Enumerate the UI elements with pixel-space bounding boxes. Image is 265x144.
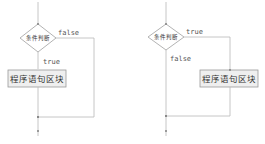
merge-point: [37, 116, 39, 118]
flowchart-canvas: 条件判断 false true 程序语句区块 条件判断 true 程序语句区块 …: [0, 0, 265, 144]
entry-arrow-icon: [165, 23, 167, 25]
merge-point: [165, 115, 167, 117]
branch-right-label: true: [186, 28, 203, 36]
left-flowchart: 条件判断 false true 程序语句区块: [8, 2, 94, 136]
branch-down-label: true: [43, 58, 60, 66]
decision-label: 条件判断: [154, 33, 178, 41]
exit-arrow-icon: [37, 130, 39, 132]
decision-label: 条件判断: [26, 34, 50, 42]
statement-block-label: 程序语句区块: [10, 74, 64, 84]
branch-down-label: false: [170, 55, 191, 63]
branch-right-label: false: [58, 29, 79, 37]
statement-block-label: 程序语句区块: [202, 74, 256, 84]
entry-arrow-icon: [37, 23, 39, 25]
exit-arrow-icon: [165, 130, 167, 132]
right-flowchart: 条件判断 true 程序语句区块 false: [148, 2, 258, 136]
block-entry-arrow-icon: [229, 69, 231, 71]
